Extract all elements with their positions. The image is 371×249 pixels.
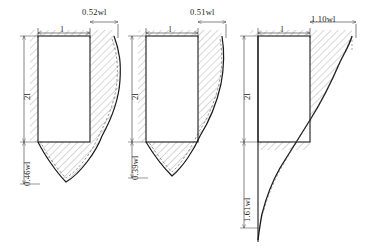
panel-2-frame xyxy=(146,36,198,142)
panel-3 xyxy=(240,22,356,242)
panel-2-peak-label: 0.51wl xyxy=(190,7,215,17)
panel-1-depth-label: 0.46wl xyxy=(22,161,32,186)
panel-2-span-label: l xyxy=(169,24,172,34)
panel-3-height-dimension xyxy=(240,36,258,142)
engineering-diagram-canvas xyxy=(0,0,371,249)
panel-2-height-label: 2l xyxy=(130,93,140,100)
panel-1-peak-label: 0.52wl xyxy=(82,7,107,17)
panel-3-span-label: l xyxy=(281,24,284,34)
panel-3-peak-label: 1.10wl xyxy=(311,14,336,24)
panel-1 xyxy=(20,22,120,184)
panel-1-frame xyxy=(38,36,90,142)
panel-3-bottom-envelope xyxy=(258,142,310,150)
panel-1-height-label: 2l xyxy=(22,93,32,100)
panel-3-height-label: 2l xyxy=(242,93,252,100)
panel-2-depth-label: 0.39wl xyxy=(130,155,140,180)
panel-2-left-hatch xyxy=(138,36,146,142)
panel-3-frame xyxy=(258,36,310,142)
panel-3-depth-label: 1.61wl xyxy=(242,197,252,222)
panel-1-left-hatch xyxy=(30,36,38,142)
figure-caption xyxy=(0,241,371,249)
panel-1-span-label: l xyxy=(61,24,64,34)
panel-2 xyxy=(128,22,226,178)
